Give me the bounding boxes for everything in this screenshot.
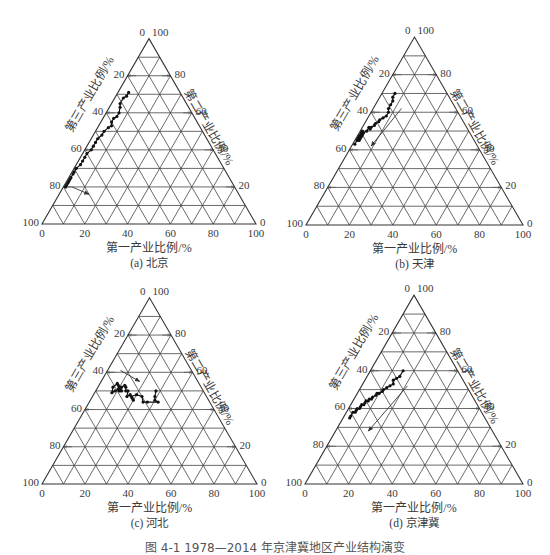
data-point [110,120,113,123]
data-point [353,143,356,146]
left-tick-label: 100 [23,216,40,228]
figure-caption: 图 4-1 1978—2014 年京津冀地区产业结构演变 [0,538,550,555]
data-point [115,115,118,118]
data-point [392,382,395,385]
left-tick-label: 20 [379,67,391,79]
bottom-tick-label: 40 [387,228,399,240]
bottom-tick-label: 100 [249,487,266,499]
left-tick-label: 0 [140,26,146,38]
right-axis-title: 第二产业比例/% [182,87,237,168]
data-point [111,386,114,389]
ternary-panel-b: 020406080100020406080100100806040200第一产业… [287,24,534,271]
data-point [122,96,125,99]
bottom-tick-label: 60 [430,487,442,499]
data-point [79,163,82,166]
bottom-tick-label: 60 [165,227,177,239]
data-point [140,395,143,398]
bottom-tick-label: 80 [208,227,220,239]
data-point [107,126,110,129]
data-point [146,400,149,403]
data-point [388,384,391,387]
trend-arrow [371,108,401,146]
data-point [365,129,368,132]
right-tick-label: 20 [240,439,252,451]
right-tick-label: 100 [418,24,435,36]
bottom-tick-label: 20 [344,228,356,240]
data-point [75,167,78,170]
right-tick-label: 0 [527,217,533,229]
panel-subtitle: (a) 北京 [130,256,168,270]
right-axis-title: 第二产业比例/% [447,87,502,168]
right-tick-label: 80 [175,327,187,339]
left-axis-title: 第三产业比例/% [62,313,117,394]
data-point [157,400,160,403]
data-point [402,369,405,372]
data-point [81,159,84,162]
panel-subtitle: (b) 天津 [395,258,433,271]
data-point [398,375,401,378]
data-point [112,117,115,120]
bottom-tick-label: 100 [515,228,532,240]
right-tick-label: 20 [505,438,517,450]
bottom-tick-label: 80 [474,228,486,240]
data-point [374,394,377,397]
left-tick-label: 0 [140,285,146,297]
data-point [64,185,67,188]
data-point [355,139,358,142]
data-point [125,95,128,98]
bottom-tick-label: 40 [122,227,134,239]
bottom-tick-label: 40 [123,487,135,499]
bottom-tick-label: 20 [343,487,355,499]
data-point [90,148,93,151]
data-point [127,91,130,94]
right-tick-label: 0 [260,216,266,228]
data-point [71,172,74,175]
data-point [392,379,395,382]
data-point [381,116,384,119]
left-tick-label: 80 [314,179,326,191]
panel-subtitle: (d) 京津冀 [389,516,438,530]
left-tick-label: 60 [71,142,83,154]
left-tick-label: 20 [114,327,126,339]
data-point [123,384,126,387]
left-tick-label: 100 [23,476,40,488]
left-tick-label: 80 [313,438,325,450]
bottom-tick-label: 0 [303,228,309,240]
right-tick-label: 20 [239,179,251,191]
left-tick-label: 20 [114,68,126,80]
data-point [100,133,103,136]
data-point [120,389,123,392]
right-tick-label: 80 [440,67,452,79]
data-point [348,416,351,419]
data-point [119,102,122,105]
bottom-axis-title: 第一产业比例/% [371,501,456,515]
bottom-axis-title: 第一产业比例/% [107,501,192,515]
right-tick-label: 0 [261,476,267,488]
left-tick-label: 60 [335,400,347,412]
data-point [391,96,394,99]
left-axis-title: 第三产业比例/% [326,311,381,392]
bottom-tick-label: 40 [387,487,399,499]
panel-subtitle: (c) 河北 [131,517,170,530]
data-point [387,111,390,114]
left-tick-label: 40 [356,363,368,375]
right-tick-label: 80 [440,325,452,337]
bottom-tick-label: 60 [166,487,178,499]
ternary-panel-c: 020406080100020406080100100806040200第一产业… [23,285,268,530]
data-point [119,106,122,109]
bottom-axis-title: 第一产业比例/% [372,242,457,256]
right-tick-label: 0 [527,476,533,488]
bottom-tick-label: 20 [79,227,91,239]
data-point [391,99,394,102]
bottom-tick-label: 0 [39,487,45,499]
data-point [141,400,144,403]
bottom-tick-label: 60 [431,228,443,240]
bottom-tick-label: 0 [39,227,45,239]
data-point [395,377,398,380]
left-tick-label: 20 [378,325,390,337]
data-point [96,137,99,140]
data-point [385,386,388,389]
ternary-panel-d: 020406080100020406080100100806040200第一产业… [286,282,534,530]
